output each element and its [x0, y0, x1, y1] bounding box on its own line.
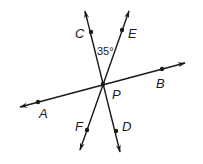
point-c [89, 30, 93, 34]
point-f [85, 128, 89, 132]
label-e: E [128, 26, 137, 41]
point-a [36, 100, 40, 104]
point-b [160, 67, 164, 71]
point-p [101, 82, 105, 86]
label-d: D [122, 119, 131, 134]
point-e [120, 28, 124, 32]
label-c: C [75, 26, 85, 41]
geometry-diagram: A B C D E F P 35° [0, 0, 203, 164]
point-d [114, 129, 118, 133]
label-f: F [75, 119, 84, 134]
angle-label: 35° [97, 45, 114, 57]
label-p: P [112, 87, 121, 102]
label-a: A [38, 106, 48, 121]
label-b: B [156, 76, 165, 91]
